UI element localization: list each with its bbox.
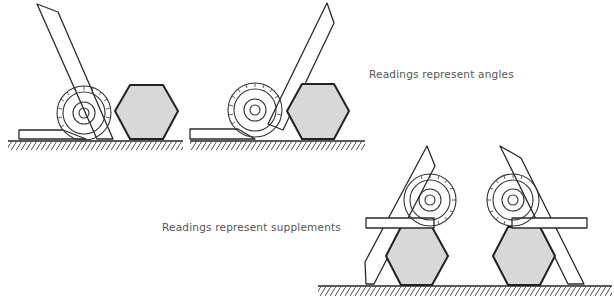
diagram-canvas: Readings represent angles Readings repre…	[0, 0, 614, 303]
protractor-dial	[228, 83, 282, 137]
figure-1-protractor-angle	[8, 4, 183, 150]
hexagon-workpiece	[115, 85, 178, 139]
protractor-stock	[190, 129, 255, 139]
diagram-drawing	[0, 0, 614, 303]
caption-readings-supplements: Readings represent supplements	[162, 221, 341, 233]
protractor-stock	[512, 218, 587, 228]
figure-2-protractor-angle	[190, 3, 365, 150]
ground-line	[8, 141, 183, 150]
figure-4-protractor-supplement	[487, 146, 587, 285]
protractor-stock	[19, 130, 86, 139]
ground-line	[318, 286, 612, 296]
caption-readings-angles: Readings represent angles	[369, 68, 514, 80]
hexagon-workpiece	[287, 84, 349, 139]
ground-line	[190, 141, 365, 150]
